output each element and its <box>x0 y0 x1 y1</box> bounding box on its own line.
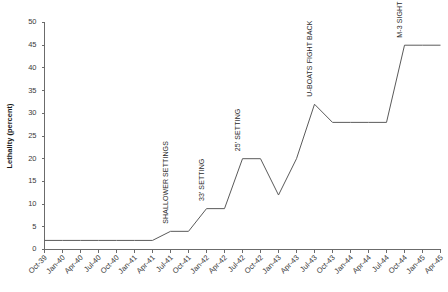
y-tick-label: 0 <box>32 244 36 253</box>
y-tick-label: 10 <box>28 199 36 208</box>
x-tick-label: Oct-40 <box>99 253 121 275</box>
x-tick-label: Jan-42 <box>188 253 211 276</box>
x-tick-label: Jan-41 <box>116 253 139 276</box>
x-axis-tick-marks <box>45 250 441 254</box>
data-series-line <box>45 45 441 240</box>
y-tick-label: 45 <box>28 40 36 49</box>
x-tick-label: Apr-43 <box>279 253 301 275</box>
chart-annotation-label: U-BOATS FIGHT BACK <box>306 20 313 96</box>
y-tick-label: 25 <box>28 131 36 140</box>
y-tick-label: 20 <box>28 154 36 163</box>
x-tick-label: Jan-40 <box>44 253 67 276</box>
x-tick-label: Oct-41 <box>171 253 193 275</box>
x-tick-label: Jan-45 <box>404 253 427 276</box>
y-tick-label: 35 <box>28 86 36 95</box>
y-tick-label: 15 <box>28 176 36 185</box>
y-axis-title: Lethality (percent) <box>5 103 14 169</box>
y-tick-label: 30 <box>28 108 36 117</box>
chart-annotation-label: 33' SETTING <box>198 159 205 202</box>
chart-canvas: 05101520253035404550 Oct-39Jan-40Apr-40J… <box>0 0 448 292</box>
lethality-line-chart: 05101520253035404550 Oct-39Jan-40Apr-40J… <box>0 0 448 292</box>
chart-annotation-label: M-3 SIGHT <box>396 1 403 38</box>
x-tick-label: Jan-43 <box>260 253 283 276</box>
x-tick-label: Oct-43 <box>315 253 337 275</box>
x-tick-label: Apr-45 <box>423 253 445 275</box>
x-tick-label: Apr-41 <box>135 253 157 275</box>
x-tick-label: Oct-39 <box>27 253 49 275</box>
x-tick-label: Oct-44 <box>387 253 409 275</box>
y-tick-label: 40 <box>28 63 36 72</box>
chart-annotations: SHALLOWER SETTINGS33' SETTING25' SETTING… <box>162 1 403 224</box>
x-tick-label: Apr-40 <box>63 253 85 275</box>
chart-annotation-label: SHALLOWER SETTINGS <box>162 141 169 224</box>
y-tick-label: 50 <box>28 17 36 26</box>
x-tick-label: Apr-44 <box>351 253 373 275</box>
y-tick-label: 5 <box>32 222 36 231</box>
chart-annotation-label: 25' SETTING <box>234 109 241 152</box>
x-tick-label: Jan-44 <box>332 253 355 276</box>
x-axis-tick-labels: Oct-39Jan-40Apr-40Jul-40Oct-40Jan-41Apr-… <box>27 253 445 276</box>
y-axis-tick-labels: 05101520253035404550 <box>28 17 36 253</box>
x-tick-label: Apr-42 <box>207 253 229 275</box>
x-tick-label: Oct-42 <box>243 253 265 275</box>
